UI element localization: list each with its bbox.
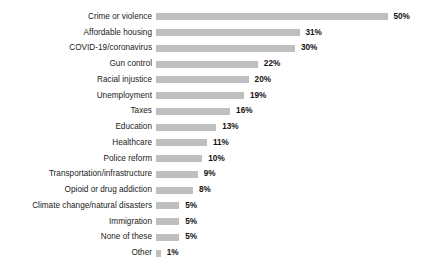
- bar-and-value: 5%: [156, 198, 197, 214]
- bar: [156, 218, 179, 225]
- category-label: Immigration: [0, 217, 152, 227]
- bar-value-label: 31%: [306, 28, 322, 38]
- bar-row: Climate change/natural disasters5%: [0, 198, 422, 214]
- bar: [156, 187, 193, 194]
- bar-value-label: 9%: [204, 169, 216, 179]
- bar: [156, 202, 179, 209]
- bar: [156, 250, 161, 257]
- bar-and-value: 22%: [156, 56, 280, 72]
- bar-row: Education13%: [0, 119, 422, 135]
- bar: [156, 124, 216, 131]
- bar: [156, 29, 300, 36]
- bar-and-value: 13%: [156, 119, 239, 135]
- category-label: Transportation/infrastructure: [0, 169, 152, 179]
- bar-value-label: 11%: [213, 138, 229, 148]
- bar-value-label: 22%: [264, 59, 280, 69]
- bar-and-value: 10%: [156, 151, 225, 167]
- bar-and-value: 8%: [156, 182, 211, 198]
- bar-and-value: 9%: [156, 167, 216, 183]
- bar: [156, 45, 295, 52]
- bar-and-value: 16%: [156, 104, 252, 120]
- bar-and-value: 11%: [156, 135, 229, 151]
- category-label: Unemployment: [0, 91, 152, 101]
- bar: [156, 13, 388, 20]
- bar-value-label: 50%: [394, 12, 410, 22]
- bar-and-value: 20%: [156, 72, 271, 88]
- category-label: Taxes: [0, 106, 152, 116]
- bar-row: Unemployment19%: [0, 88, 422, 104]
- bar-and-value: 1%: [156, 245, 178, 261]
- category-label: Climate change/natural disasters: [0, 201, 152, 211]
- bar-and-value: 5%: [156, 214, 197, 230]
- category-label: Healthcare: [0, 138, 152, 148]
- category-label: Crime or violence: [0, 12, 152, 22]
- bar-row: Crime or violence50%: [0, 9, 422, 25]
- bar-row: Taxes16%: [0, 104, 422, 120]
- bar-row: COVID-19/coronavirus30%: [0, 41, 422, 57]
- bar-row: Healthcare11%: [0, 135, 422, 151]
- category-label: Education: [0, 122, 152, 132]
- bar: [156, 76, 249, 83]
- horizontal-bar-chart: Crime or violence50%Affordable housing31…: [0, 0, 422, 271]
- bar-row: Affordable housing31%: [0, 25, 422, 41]
- bar-value-label: 1%: [167, 248, 179, 258]
- bar-row: Transportation/infrastructure9%: [0, 167, 422, 183]
- bar-and-value: 5%: [156, 230, 197, 246]
- bar-and-value: 30%: [156, 41, 317, 57]
- bar-value-label: 20%: [255, 75, 271, 85]
- bar-value-label: 16%: [236, 106, 252, 116]
- bar: [156, 108, 230, 115]
- bar-value-label: 10%: [208, 154, 224, 164]
- category-label: COVID-19/coronavirus: [0, 43, 152, 53]
- bar: [156, 234, 179, 241]
- bar-and-value: 31%: [156, 25, 322, 41]
- bar: [156, 139, 207, 146]
- bar-and-value: 19%: [156, 88, 266, 104]
- category-label: Affordable housing: [0, 28, 152, 38]
- bar-value-label: 5%: [185, 217, 197, 227]
- bar-value-label: 8%: [199, 185, 211, 195]
- category-label: None of these: [0, 232, 152, 242]
- bar-row: None of these5%: [0, 230, 422, 246]
- bar-row: Opioid or drug addiction8%: [0, 182, 422, 198]
- bar-row: Police reform10%: [0, 151, 422, 167]
- bar-and-value: 50%: [156, 9, 410, 25]
- category-label: Racial injustice: [0, 75, 152, 85]
- bar-value-label: 30%: [301, 43, 317, 53]
- category-label: Other: [0, 248, 152, 258]
- bar-value-label: 5%: [185, 232, 197, 242]
- category-label: Gun control: [0, 59, 152, 69]
- bar-value-label: 19%: [250, 91, 266, 101]
- category-label: Opioid or drug addiction: [0, 185, 152, 195]
- bar-row: Immigration5%: [0, 214, 422, 230]
- bar-value-label: 13%: [222, 122, 238, 132]
- bar-row: Racial injustice20%: [0, 72, 422, 88]
- bar: [156, 61, 258, 68]
- bar-value-label: 5%: [185, 201, 197, 211]
- bar: [156, 92, 244, 99]
- bar-row: Other1%: [0, 245, 422, 261]
- bar: [156, 171, 198, 178]
- bar-row: Gun control22%: [0, 56, 422, 72]
- category-label: Police reform: [0, 154, 152, 164]
- bar: [156, 155, 202, 162]
